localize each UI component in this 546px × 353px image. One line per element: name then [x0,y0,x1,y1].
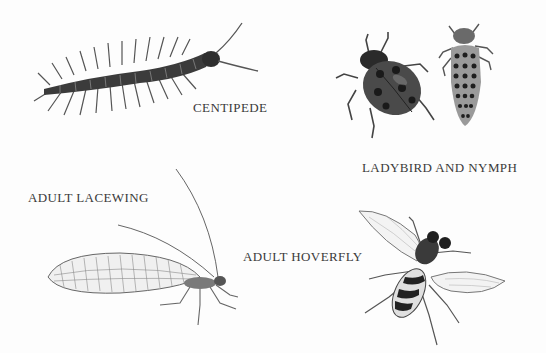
lacewing-illustration [40,165,240,330]
ladybird-illustration [330,30,440,140]
ladybird-label: LADYBIRD AND NYMPH [362,160,517,176]
illustration-plate: CENTIPEDE LADYBIR [0,0,546,353]
hoverfly-illustration [355,205,515,350]
hoverfly-label: ADULT HOVERFLY [243,249,363,265]
centipede-label: CENTIPEDE [193,100,267,116]
nymph-illustration [435,22,505,132]
